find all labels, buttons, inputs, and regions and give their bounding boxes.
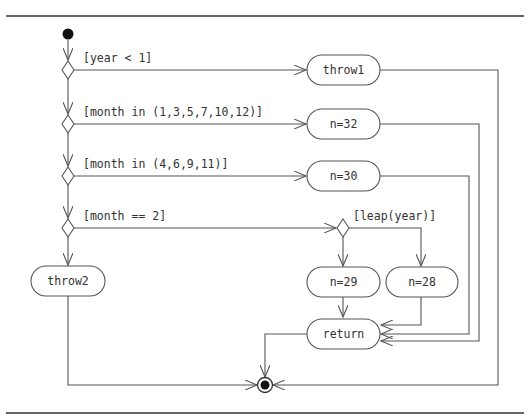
guard-month-30: [month in (4,6,9,11)] [83,157,228,171]
action-n29-label: n=29 [330,275,358,289]
action-throw2-label: throw2 [47,274,89,288]
initial-node [63,29,74,40]
edge-throw2-final [68,296,257,385]
decision-month-30 [62,167,74,185]
action-return: return [307,319,380,349]
action-return-label: return [323,327,365,341]
action-n30: n=30 [307,161,380,191]
final-node [258,378,273,393]
action-throw2: throw2 [31,266,105,296]
decision-leap [337,219,349,237]
action-throw1: throw1 [307,55,380,85]
action-n28-label: n=28 [408,275,436,289]
action-throw1-label: throw1 [323,63,365,77]
guard-leap: [leap(year)] [353,209,436,223]
decision-year [62,61,74,79]
edge-n28-return [381,297,421,325]
action-n32-label: n=32 [330,117,358,131]
decision-month-feb [62,219,74,237]
edge-return-final [265,334,307,377]
action-n30-label: n=30 [330,169,358,183]
action-n28: n=28 [386,267,458,297]
decision-month-31 [62,115,74,133]
edge-n30-return [380,176,469,334]
action-n29: n=29 [307,267,380,297]
guard-month-31: [month in (1,3,5,7,10,12)] [83,105,263,119]
edge-n32-return [380,124,479,341]
action-n32: n=32 [307,109,380,139]
activity-diagram: [year < 1] [month in (1,3,5,7,10,12)] [m… [0,0,530,420]
edge-d5-n28 [349,228,421,266]
guard-year: [year < 1] [83,51,152,65]
guard-month-feb: [month == 2] [83,209,166,223]
